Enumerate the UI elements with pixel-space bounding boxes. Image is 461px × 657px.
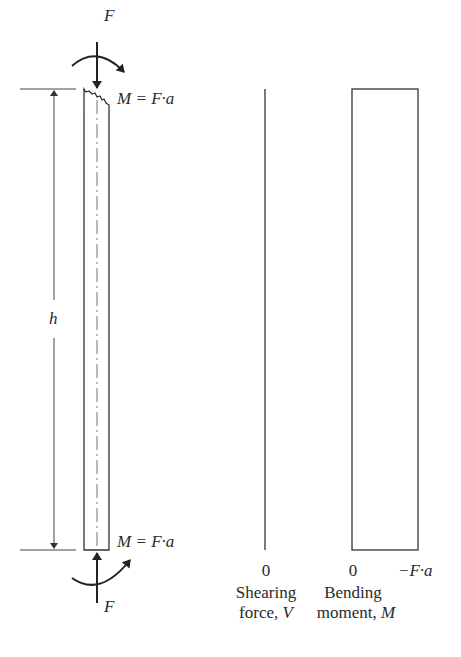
height-dimension [20, 89, 76, 550]
moment-value-label: −F·a [398, 561, 433, 580]
bottom-moment-arc-icon [72, 560, 130, 585]
bending-moment-rect [352, 89, 418, 550]
height-label: h [49, 309, 58, 328]
moment-title-line1: Bending [324, 583, 382, 602]
bottom-force-label: F [104, 597, 114, 616]
shear-title-line1: Shearing [236, 583, 296, 602]
top-moment-label: M = F·a [117, 89, 174, 108]
moment-title-line2: moment, M [317, 603, 395, 622]
bottom-moment-label: M = F·a [117, 532, 174, 551]
column-body [84, 89, 109, 550]
shear-title-line2: force, V [239, 603, 293, 622]
moment-zero-label: 0 [349, 561, 358, 580]
diagram-canvas [0, 0, 461, 657]
shear-zero-label: 0 [262, 561, 271, 580]
top-force-label: F [104, 6, 114, 25]
